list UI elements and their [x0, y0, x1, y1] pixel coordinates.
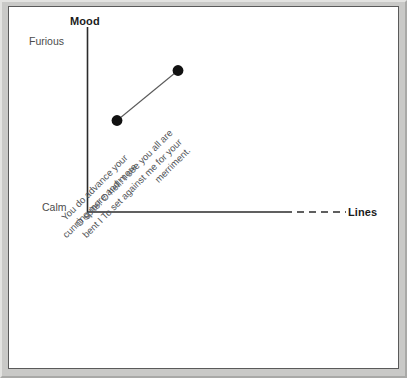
- chart-svg: [9, 7, 398, 368]
- x-axis-title: Lines: [348, 206, 377, 218]
- data-point-marker: [173, 65, 184, 76]
- series-line: [117, 71, 178, 121]
- figure-screenshot: Mood Lines Furious Calm You do advance y…: [0, 0, 407, 378]
- y-axis-title: Mood: [70, 15, 100, 27]
- data-point-marker: [112, 115, 123, 126]
- figure-card: Mood Lines Furious Calm You do advance y…: [8, 6, 399, 369]
- y-tick-label-furious: Furious: [29, 35, 64, 47]
- chart-area: [9, 7, 398, 368]
